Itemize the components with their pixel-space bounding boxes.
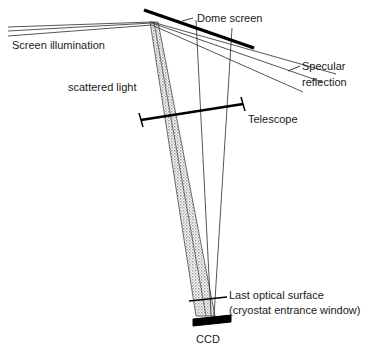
specular-reflection-leader bbox=[288, 66, 300, 71]
label-specular-reflection-line2: reflection bbox=[302, 76, 347, 88]
dome-screen-leader bbox=[182, 18, 193, 21]
scattered-light-cone bbox=[150, 22, 215, 316]
label-last-optical-surface-line2: (cryostat entrance window) bbox=[229, 304, 360, 316]
screen-illumination-rays bbox=[8, 22, 152, 36]
specular-ray-2 bbox=[152, 23, 322, 82]
label-telescope: Telescope bbox=[248, 113, 298, 125]
label-last-optical-surface-line1: Last optical surface bbox=[229, 289, 324, 301]
label-scattered-light: scattered light bbox=[68, 81, 136, 93]
telescope-bar bbox=[141, 104, 243, 120]
diagram-canvas: Dome screen Screen illumination Specular… bbox=[0, 0, 370, 355]
optical-diagram-figure: Dome screen Screen illumination Specular… bbox=[0, 0, 370, 355]
scattered-light-beam bbox=[150, 22, 215, 316]
label-ccd: CCD bbox=[196, 333, 220, 345]
ccd-detector bbox=[193, 315, 231, 326]
label-dome-screen: Dome screen bbox=[197, 12, 262, 24]
label-specular-reflection-line1: Specular bbox=[302, 60, 346, 72]
label-screen-illumination: Screen illumination bbox=[12, 39, 105, 51]
telescope-edge-ray-right bbox=[214, 28, 232, 316]
telescope-aperture bbox=[139, 97, 245, 127]
